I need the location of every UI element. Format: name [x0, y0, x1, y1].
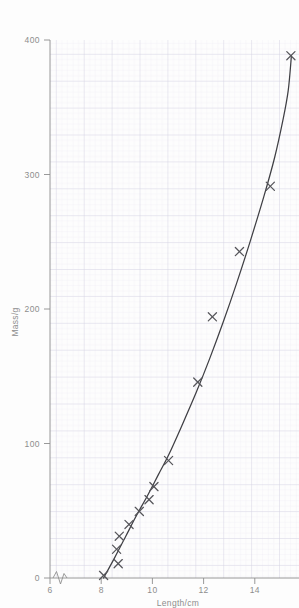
y-tick-label-0: 0	[35, 573, 40, 583]
y-tick-label-200: 200	[25, 304, 40, 314]
scatter-plot-svg: 400 300 200 100 0 6 8 10 12 14 Length/cm…	[0, 0, 299, 608]
x-tick-label-8: 8	[99, 585, 104, 595]
x-axis-title: Length/cm	[157, 598, 199, 608]
chart-container: 400 300 200 100 0 6 8 10 12 14 Length/cm…	[0, 0, 299, 608]
graph-paper-grid	[50, 40, 299, 578]
grid-area	[50, 40, 299, 578]
y-tick-label-100: 100	[25, 439, 40, 449]
y-tick-label-400: 400	[25, 35, 40, 45]
x-tick-label-14: 14	[250, 585, 260, 595]
x-tick-label-12: 12	[198, 585, 208, 595]
x-tick-label-6: 6	[47, 585, 52, 595]
y-axis-title: Mass/g	[10, 307, 20, 336]
y-tick-label-300: 300	[25, 170, 40, 180]
x-tick-label-10: 10	[147, 585, 157, 595]
